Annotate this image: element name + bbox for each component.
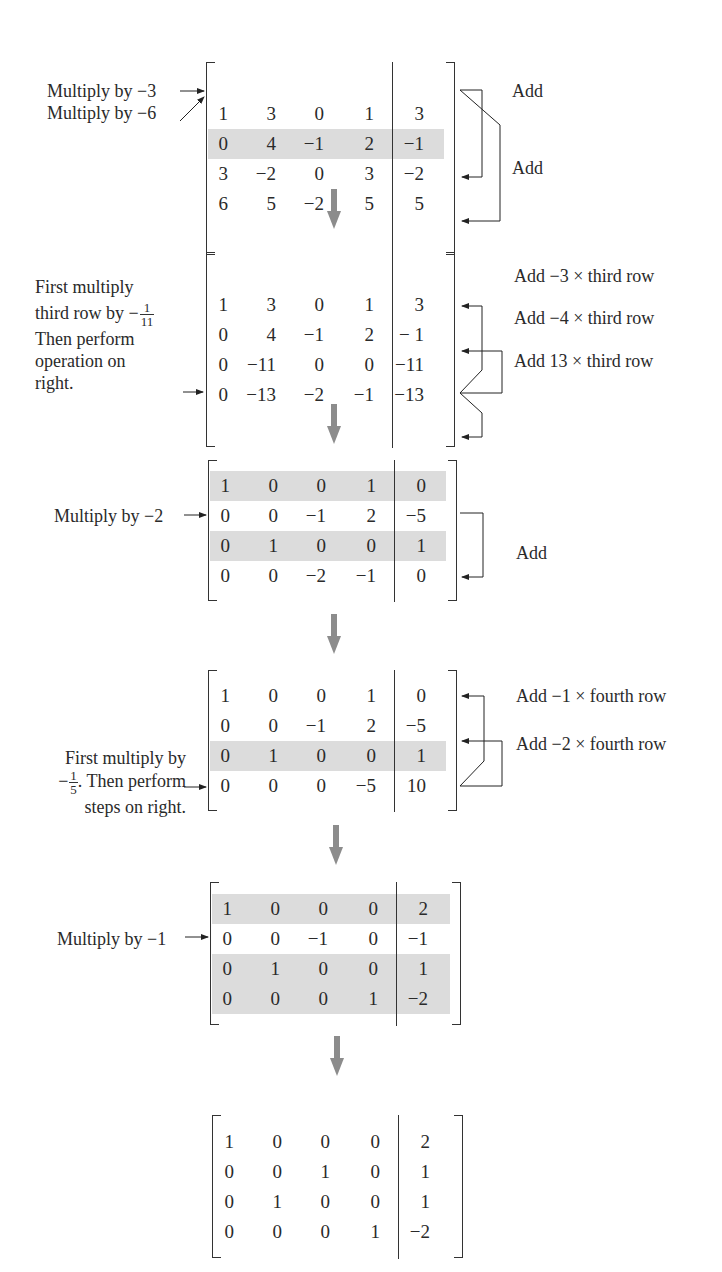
matrix-cell: 0 <box>296 471 326 501</box>
matrix-cell: 2 <box>346 501 376 531</box>
matrix-cell: 0 <box>294 159 324 189</box>
matrix-cell: −1 <box>346 561 376 591</box>
augmented-cell: −13 <box>394 380 424 410</box>
matrix-cell: 1 <box>346 681 376 711</box>
matrix-cell: 0 <box>248 771 278 801</box>
matrix-cell: 1 <box>248 531 278 561</box>
matrix-cell: 0 <box>252 1217 282 1247</box>
augment-divider <box>392 252 393 448</box>
matrix-cell: 0 <box>348 924 378 954</box>
matrix-cell: 5 <box>246 189 276 219</box>
matrix-row: 00−12−5 <box>210 501 446 531</box>
matrix-row: 10002 <box>214 1127 452 1157</box>
augment-divider <box>394 460 395 602</box>
matrix-step4: 1001000−12−501001000−510 <box>208 670 458 812</box>
right-bracket <box>448 670 457 811</box>
left-bracket <box>208 670 217 811</box>
matrix-cell: 1 <box>250 954 280 984</box>
left-bracket <box>206 62 215 255</box>
left-bracket <box>210 882 219 1025</box>
augmented-cell: −11 <box>394 350 424 380</box>
matrix-cell: −2 <box>294 189 324 219</box>
matrix-cell: 0 <box>248 471 278 501</box>
down-arrow-icon <box>330 1036 344 1076</box>
augmented-cell: −1 <box>398 924 428 954</box>
matrix-cell: 0 <box>300 1187 330 1217</box>
matrix-cell: 2 <box>346 711 376 741</box>
annotation-add-neg2-fourth-row: Add −2 × fourth row <box>516 733 666 755</box>
matrix-row: 04−12− 1 <box>208 320 444 350</box>
matrix-cell: 0 <box>296 531 326 561</box>
fraction: 15 <box>69 769 78 796</box>
matrix-row: 01001 <box>212 954 450 984</box>
matrix-cell: 0 <box>298 894 328 924</box>
augment-divider <box>396 882 397 1026</box>
matrix-cell: 1 <box>252 1187 282 1217</box>
matrix-step6: 1000200101010010001−2 <box>212 1115 464 1259</box>
right-bracket <box>448 460 457 601</box>
matrix-cell: 0 <box>250 924 280 954</box>
matrix-cell: −5 <box>346 771 376 801</box>
annotation-multiply-by-neg3: Multiply by −3 <box>47 80 156 102</box>
matrix-cell: 0 <box>294 350 324 380</box>
matrix-row: 13013 <box>208 99 444 129</box>
down-arrow-icon <box>329 825 343 865</box>
annotation-add: Add <box>516 542 547 564</box>
matrix-row: 13013 <box>208 290 444 320</box>
matrix-cell: 3 <box>246 99 276 129</box>
matrix-row: 00−10−1 <box>212 924 450 954</box>
matrix-cell: −1 <box>294 129 324 159</box>
annotation-multiply-by-neg1: Multiply by −1 <box>57 928 166 950</box>
right-bracket <box>452 882 461 1025</box>
augmented-cell: 3 <box>394 99 424 129</box>
left-bracket <box>206 252 215 447</box>
matrix-cell: 0 <box>248 501 278 531</box>
matrix-cell: 0 <box>300 1127 330 1157</box>
annotation-multiply-by-neg2: Multiply by −2 <box>54 505 163 527</box>
matrix-cell: 3 <box>344 159 374 189</box>
matrix-cell: 0 <box>250 894 280 924</box>
matrix-cell: 3 <box>246 290 276 320</box>
augmented-cell: 0 <box>396 471 426 501</box>
matrix-cell: 0 <box>350 1157 380 1187</box>
gauss-jordan-figure: 1301304−12−13−203−265−255 Multiply by −3… <box>0 0 722 1272</box>
matrix-row: 0−1100−11 <box>208 350 444 380</box>
augmented-cell: −2 <box>398 984 428 1014</box>
matrix-cell: 1 <box>350 1217 380 1247</box>
matrix-row: 65−255 <box>208 189 444 219</box>
annotation-first-multiply-by: First multiply by −15. Then perform step… <box>26 747 186 818</box>
augmented-cell: 2 <box>400 1127 430 1157</box>
matrix-cell: −11 <box>246 350 276 380</box>
matrix-step5: 1000200−10−1010010001−2 <box>210 882 462 1026</box>
matrix-cell: 0 <box>344 350 374 380</box>
matrix-cell: −2 <box>246 159 276 189</box>
down-arrow-icon <box>327 404 341 444</box>
augment-divider <box>398 1115 399 1259</box>
fraction: 111 <box>140 301 155 328</box>
matrix-cell: 4 <box>246 129 276 159</box>
augmented-cell: 1 <box>398 954 428 984</box>
matrix-cell: 0 <box>294 290 324 320</box>
matrix-row: 00101 <box>214 1157 452 1187</box>
down-arrow-icon <box>327 189 341 229</box>
matrix-cell: 0 <box>296 771 326 801</box>
augmented-cell: 1 <box>396 741 426 771</box>
matrix-cell: 1 <box>348 984 378 1014</box>
matrix-cell: 4 <box>246 320 276 350</box>
matrix-cell: 0 <box>348 954 378 984</box>
matrix-cell: −1 <box>294 320 324 350</box>
matrix-row: 04−12−1 <box>208 129 444 159</box>
matrix-row: 00−12−5 <box>210 711 446 741</box>
augmented-cell: 3 <box>394 290 424 320</box>
matrix-cell: 0 <box>300 1217 330 1247</box>
annotation-add-neg3-third-row: Add −3 × third row <box>514 265 654 287</box>
augmented-cell: −2 <box>400 1217 430 1247</box>
matrix-cell: −2 <box>294 380 324 410</box>
matrix-cell: 0 <box>350 1187 380 1217</box>
matrix-row: 00−2−10 <box>210 561 446 591</box>
matrix-cell: 0 <box>298 954 328 984</box>
matrix-cell: 0 <box>250 984 280 1014</box>
matrix-cell: −1 <box>296 501 326 531</box>
matrix-row: 0001−2 <box>212 984 450 1014</box>
down-arrow-icon <box>327 614 341 654</box>
